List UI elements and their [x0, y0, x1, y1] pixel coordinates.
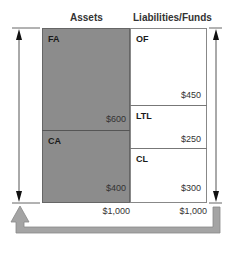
assets-total: $1,000: [90, 206, 130, 216]
cl-value: $300: [160, 183, 201, 193]
liabilities-header: Liabilities/Funds: [133, 12, 212, 23]
cl-label: CL: [136, 154, 148, 164]
ca-label: CA: [48, 136, 61, 146]
liabilities-total: $1,000: [166, 206, 207, 216]
fa-label: FA: [48, 34, 60, 44]
ltl-label: LTL: [136, 111, 152, 121]
assets-divider: [42, 130, 130, 131]
ca-value: $400: [84, 183, 126, 193]
right-double-arrow-icon: [213, 29, 219, 202]
ltl-cl-divider: [130, 148, 207, 149]
of-ltl-divider: [130, 105, 207, 106]
of-label: OF: [136, 34, 149, 44]
left-double-arrow-icon: [16, 29, 22, 202]
fa-value: $600: [84, 114, 126, 124]
of-value: $450: [160, 90, 201, 100]
assets-header: Assets: [70, 12, 103, 23]
ltl-value: $250: [160, 134, 201, 144]
